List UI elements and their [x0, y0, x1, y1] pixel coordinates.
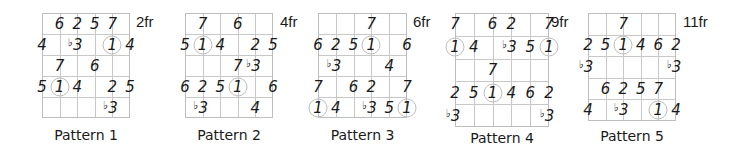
- degree-number: 6: [233, 14, 243, 32]
- degree-number: 5: [384, 98, 394, 116]
- degree-number: 4: [384, 56, 394, 74]
- scale-note: 4: [37, 37, 47, 52]
- string-line: [220, 14, 221, 117]
- root-note: 1: [402, 100, 412, 115]
- degree-number: 7: [367, 14, 377, 32]
- degree-number: 5: [525, 38, 535, 56]
- scale-note: 5: [125, 79, 135, 94]
- scale-note: 4: [507, 85, 517, 100]
- degree-number: 6: [349, 77, 359, 95]
- degree-number: 5: [268, 35, 278, 53]
- degree-number: 3: [672, 58, 682, 76]
- degree-number: 6: [268, 77, 278, 95]
- degree-number: 7: [450, 15, 460, 33]
- scale-note: 6: [90, 58, 100, 73]
- degree-number: 4: [671, 101, 681, 119]
- scale-note: 6: [488, 17, 498, 32]
- scale-note: 5: [469, 85, 479, 100]
- degree-number: 1: [544, 38, 554, 56]
- scale-note: 2: [544, 85, 554, 100]
- scale-note: 7: [233, 58, 243, 73]
- fret-line: [589, 56, 675, 57]
- fret-position-label: 6fr: [413, 14, 431, 29]
- degree-number: 6: [654, 36, 664, 54]
- scale-note: 5: [601, 38, 611, 53]
- degree-number: 2: [198, 77, 208, 95]
- degree-number: 3: [251, 57, 261, 75]
- scale-note: 4: [251, 100, 261, 115]
- degree-number: 5: [90, 14, 100, 32]
- flat-note: ♭3: [103, 100, 118, 116]
- flat-note: ♭3: [246, 58, 261, 74]
- scale-note: 6: [55, 16, 65, 31]
- scale-note: 2: [367, 79, 377, 94]
- flat-note: ♭3: [68, 37, 83, 53]
- degree-number: 5: [180, 35, 190, 53]
- fret-line: [456, 59, 548, 60]
- degree-number: 7: [55, 56, 65, 74]
- string-line: [606, 14, 607, 120]
- scale-note: 4: [215, 37, 225, 52]
- degree-number: 6: [488, 15, 498, 33]
- degree-number: 6: [402, 35, 412, 53]
- degree-number: 4: [251, 98, 261, 116]
- degree-number: 2: [507, 15, 517, 33]
- degree-number: 6: [525, 83, 535, 101]
- degree-number: 1: [233, 77, 243, 95]
- degree-number: 4: [331, 98, 341, 116]
- degree-number: 5: [125, 77, 135, 95]
- scale-note: 7: [450, 17, 460, 32]
- scale-note: 7: [488, 63, 498, 78]
- scale-note: 7: [198, 16, 208, 31]
- degree-number: 7: [488, 61, 498, 79]
- degree-number: 4: [125, 35, 135, 53]
- scale-note: 4: [72, 79, 82, 94]
- scale-note: 2: [450, 85, 460, 100]
- degree-number: 6: [55, 14, 65, 32]
- scale-note: 2: [251, 37, 261, 52]
- scale-note: 5: [180, 37, 190, 52]
- degree-number: 7: [198, 14, 208, 32]
- scale-note: 7: [108, 16, 118, 31]
- scale-note: 2: [331, 37, 341, 52]
- degree-number: 1: [402, 98, 412, 116]
- degree-number: 7: [313, 77, 323, 95]
- degree-number: 4: [37, 35, 47, 53]
- scale-note: 7: [55, 58, 65, 73]
- fret-line: [456, 81, 548, 82]
- degree-number: 7: [402, 77, 412, 95]
- string-line: [530, 14, 531, 126]
- scale-note: 7: [544, 17, 554, 32]
- fret-line: [319, 76, 406, 77]
- pattern-title: Pattern 3: [331, 127, 395, 143]
- root-note: 1: [618, 38, 628, 53]
- degree-number: 7: [618, 14, 628, 32]
- degree-number: 2: [671, 36, 681, 54]
- degree-number: 1: [450, 38, 460, 56]
- scale-note: 2: [618, 81, 628, 96]
- degree-number: 3: [619, 101, 629, 119]
- degree-number: 3: [507, 38, 517, 56]
- scale-note: 5: [525, 40, 535, 55]
- degree-number: 1: [313, 98, 323, 116]
- scale-note: 4: [384, 58, 394, 73]
- degree-number: 2: [108, 77, 118, 95]
- scale-note: 7: [402, 79, 412, 94]
- degree-number: 2: [331, 35, 341, 53]
- scale-note: 2: [671, 38, 681, 53]
- degree-number: 1: [108, 35, 118, 53]
- degree-number: 6: [313, 35, 323, 53]
- degree-number: 7: [654, 79, 664, 97]
- scale-note: 4: [125, 37, 135, 52]
- scale-note: 5: [90, 16, 100, 31]
- scale-note: 4: [583, 103, 593, 118]
- fretboard-grid: [455, 13, 549, 127]
- flat-note: ♭3: [326, 58, 341, 74]
- scale-note: 6: [654, 38, 664, 53]
- root-note: 1: [654, 103, 664, 118]
- degree-number: 1: [55, 77, 65, 95]
- scale-note: 2: [583, 38, 593, 53]
- root-note: 1: [55, 79, 65, 94]
- fret-line: [456, 36, 548, 37]
- scale-note: 2: [72, 16, 82, 31]
